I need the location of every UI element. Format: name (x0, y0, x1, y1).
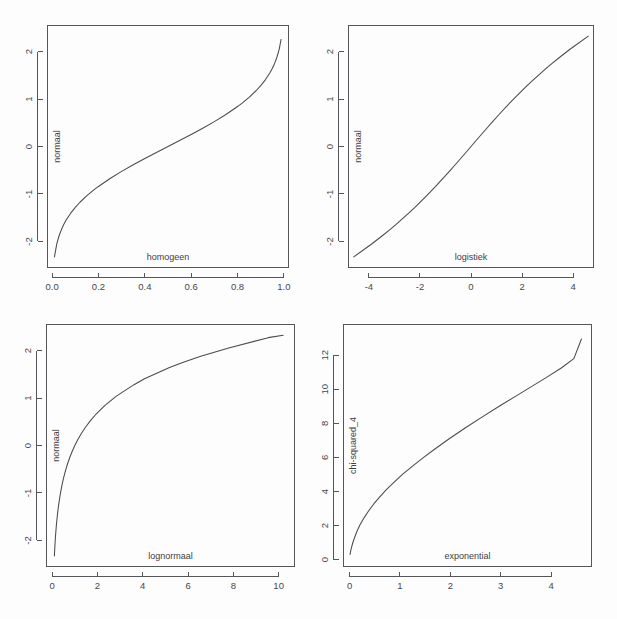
x-tick-label: 0.6 (185, 281, 198, 292)
data-curve (54, 39, 281, 256)
plot-frame (47, 325, 295, 567)
plot-svg-logistiek-normaal: -4-2024 -2-1012 logistiek normaal (308, 0, 617, 310)
plot-panel-top-left: 0.00.20.40.60.81.0 -2-1012 homogeen norm… (0, 0, 309, 310)
data-curve-group (54, 335, 283, 556)
x-tick-label: 2 (519, 281, 524, 292)
data-curve-group (354, 36, 589, 257)
x-axis-title: lognormaal (148, 551, 193, 561)
x-axis-ticks: 01234 (347, 572, 554, 591)
x-axis-ticks: 0246810 (50, 572, 284, 591)
plot-svg-homogeen-normaal: 0.00.20.40.60.81.0 -2-1012 homogeen norm… (0, 0, 309, 310)
y-axis-ticks: 024681012 (319, 350, 339, 562)
y-tick-label: 4 (319, 489, 330, 494)
y-axis-title: normaal (353, 130, 363, 163)
y-tick-label: 1 (23, 96, 34, 101)
x-tick-label: 6 (185, 580, 190, 591)
plot-panel-bottom-right: 01234 024681012 exponential chi-squared_… (308, 309, 617, 619)
x-tick-label: 3 (498, 580, 503, 591)
x-tick-label: -2 (416, 281, 424, 292)
plot-svg-lognormaal-normaal: 0246810 -2-1012 lognormaal normaal (0, 309, 309, 619)
data-curve (354, 36, 589, 257)
x-tick-label: -4 (365, 281, 373, 292)
x-tick-label: 0 (347, 580, 352, 591)
x-tick-label: 2 (448, 580, 453, 591)
y-tick-label: 8 (319, 421, 330, 426)
y-tick-label: 1 (22, 395, 33, 400)
x-tick-label: 0 (50, 580, 55, 591)
plot-panel-top-right: -4-2024 -2-1012 logistiek normaal (308, 0, 617, 310)
y-axis-ticks: -2-1012 (23, 49, 43, 246)
plot-frame (344, 325, 592, 567)
y-tick-label: 0 (319, 557, 330, 562)
plot-panel-bottom-left: 0246810 -2-1012 lognormaal normaal (0, 309, 309, 619)
y-tick-label: 1 (324, 96, 335, 101)
x-tick-label: 1 (397, 580, 402, 591)
data-curve-group (54, 39, 281, 256)
y-axis-ticks: -2-1012 (324, 49, 344, 246)
y-tick-label: 2 (324, 49, 335, 54)
x-tick-label: 8 (231, 580, 236, 591)
y-tick-label: 10 (319, 384, 330, 395)
x-tick-label: 0.8 (231, 281, 244, 292)
y-axis-title: normaal (51, 429, 61, 462)
y-tick-label: 6 (319, 455, 330, 460)
plot-frame-group (344, 325, 592, 567)
data-curve (54, 335, 283, 556)
y-axis-ticks: -2-1012 (22, 348, 42, 545)
y-tick-label: 12 (319, 350, 330, 361)
y-tick-label: 2 (23, 49, 34, 54)
data-curve-group (350, 339, 581, 555)
x-tick-label: 4 (140, 580, 145, 591)
x-tick-label: 4 (549, 580, 554, 591)
x-tick-label: 4 (570, 281, 575, 292)
x-axis-ticks: 0.00.20.40.60.81.0 (46, 273, 291, 292)
x-tick-label: 0.4 (138, 281, 151, 292)
data-curve (350, 339, 581, 555)
y-tick-label: 2 (22, 348, 33, 353)
plot-svg-exponential-chisquared: 01234 024681012 exponential chi-squared_… (308, 309, 617, 619)
x-tick-label: 2 (95, 580, 100, 591)
y-tick-label: 0 (324, 144, 335, 149)
x-axis-title: homogeen (147, 252, 190, 262)
y-tick-label: -1 (23, 190, 34, 198)
x-tick-label: 1.0 (277, 281, 290, 292)
figure-canvas: 0.00.20.40.60.81.0 -2-1012 homogeen norm… (0, 0, 617, 619)
y-axis-title: chi-squared_4 (348, 417, 358, 474)
x-axis-title: exponential (444, 551, 490, 561)
y-tick-label: -2 (324, 237, 335, 245)
x-axis-ticks: -4-2024 (365, 273, 576, 292)
x-tick-label: 0.0 (46, 281, 59, 292)
y-tick-label: -2 (22, 536, 33, 544)
y-tick-label: -2 (23, 237, 34, 245)
y-axis-title: normaal (52, 130, 62, 163)
plot-frame-group (47, 325, 295, 567)
y-tick-label: -1 (22, 489, 33, 497)
y-tick-label: 0 (22, 443, 33, 448)
x-axis-title: logistiek (455, 252, 488, 262)
x-tick-label: 10 (273, 580, 284, 591)
y-tick-label: -1 (324, 190, 335, 198)
x-tick-label: 0 (468, 281, 473, 292)
y-tick-label: 2 (319, 523, 330, 528)
x-tick-label: 0.2 (92, 281, 105, 292)
y-tick-label: 0 (23, 144, 34, 149)
